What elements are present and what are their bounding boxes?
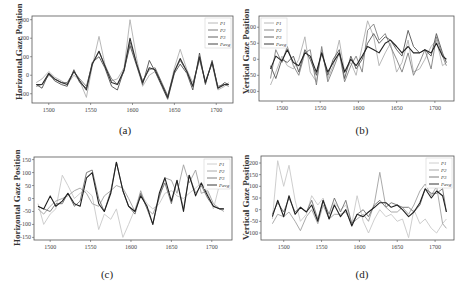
x-tick-label: 1500 bbox=[43, 107, 55, 113]
x-tick-label: 1650 bbox=[168, 107, 180, 113]
x-tick-label: 1650 bbox=[165, 244, 177, 250]
x-tick-label: 1500 bbox=[276, 105, 288, 111]
plot-frame bbox=[32, 16, 233, 103]
y-tick-label: 100 bbox=[247, 24, 256, 30]
legend-label: P3 bbox=[219, 35, 226, 40]
x-tick-label: 1500 bbox=[278, 244, 290, 250]
y-tick-label: -150 bbox=[20, 234, 31, 240]
plot-frame bbox=[259, 16, 454, 101]
x-tick-label: 1550 bbox=[85, 244, 97, 250]
y-tick-label: 0 bbox=[255, 207, 258, 213]
caption-a: (a) bbox=[110, 124, 140, 136]
y-tick-label: -100 bbox=[247, 230, 258, 236]
legend: P1P2P3Pavg bbox=[205, 18, 231, 48]
y-tick-label: -50 bbox=[23, 208, 31, 214]
legend-label: P2 bbox=[275, 28, 282, 33]
legend-label: P2 bbox=[219, 28, 226, 33]
y-tick-label: -100 bbox=[20, 221, 31, 227]
caption-b: (b) bbox=[347, 124, 377, 136]
chart-panel-b: Vertical Gaze Position 15001550160016501… bbox=[235, 0, 469, 148]
legend-label: Pavg bbox=[440, 182, 452, 187]
y-tick-label: 100 bbox=[249, 183, 258, 189]
legend: P1P2P3Pavg bbox=[426, 158, 452, 188]
legend-label: P1 bbox=[440, 161, 447, 166]
y-tick-label: 0 bbox=[253, 56, 256, 62]
x-tick-label: 1500 bbox=[44, 244, 56, 250]
legend-label: Pavg bbox=[275, 42, 287, 47]
chart-panel-c: Horizontal Gaze Position 150015501600165… bbox=[0, 148, 235, 297]
legend: P1P2P3Pavg bbox=[204, 159, 230, 189]
legend-label: P3 bbox=[275, 35, 282, 40]
y-tick-label: 50 bbox=[25, 183, 31, 189]
y-tick-label: -100 bbox=[18, 91, 29, 97]
y-tick-label: 50 bbox=[252, 195, 258, 201]
legend-label: Pavg bbox=[219, 42, 231, 47]
x-tick-label: 1700 bbox=[210, 107, 222, 113]
legend-label: P2 bbox=[218, 169, 225, 174]
y-tick-label: 150 bbox=[249, 172, 258, 178]
x-tick-label: 1600 bbox=[352, 105, 364, 111]
legend-label: P3 bbox=[440, 175, 447, 180]
x-tick-label: 1700 bbox=[429, 105, 441, 111]
x-tick-label: 1550 bbox=[314, 105, 326, 111]
legend-label: P1 bbox=[275, 21, 282, 26]
x-tick-label: 1550 bbox=[316, 244, 328, 250]
x-tick-label: 1600 bbox=[125, 244, 137, 250]
caption-c: (c) bbox=[92, 268, 122, 280]
y-tick-label: -50 bbox=[248, 72, 256, 78]
x-tick-label: 1550 bbox=[85, 107, 97, 113]
caption-d: (d) bbox=[347, 268, 377, 280]
x-tick-label: 1650 bbox=[391, 244, 403, 250]
y-tick-label: 50 bbox=[250, 40, 256, 46]
y-tick-label: -100 bbox=[245, 88, 256, 94]
x-tick-label: 1700 bbox=[429, 244, 441, 250]
legend-label: P1 bbox=[218, 162, 225, 167]
chart-panel-d: Vertical Gaze Position 15001550160016501… bbox=[235, 148, 469, 297]
legend: P1P2P3Pavg bbox=[261, 18, 287, 48]
x-tick-label: 1650 bbox=[391, 105, 403, 111]
chart-panel-a: Horizontal Gaze Position 150015501600165… bbox=[0, 0, 235, 148]
x-tick-label: 1600 bbox=[127, 107, 139, 113]
y-tick-label: 100 bbox=[20, 54, 29, 60]
y-tick-label: 150 bbox=[22, 157, 31, 163]
legend-label: P2 bbox=[440, 168, 447, 173]
x-tick-label: 1600 bbox=[353, 244, 365, 250]
y-tick-label: 200 bbox=[249, 160, 258, 166]
y-tick-label: 200 bbox=[20, 35, 29, 41]
legend-label: P3 bbox=[218, 176, 225, 181]
legend-label: P1 bbox=[219, 21, 226, 26]
x-tick-label: 1700 bbox=[206, 244, 218, 250]
y-tick-label: 0 bbox=[28, 196, 31, 202]
y-tick-label: -50 bbox=[250, 218, 258, 224]
y-tick-label: 0 bbox=[26, 72, 29, 78]
y-tick-label: 100 bbox=[22, 170, 31, 176]
y-tick-label: 300 bbox=[20, 17, 29, 23]
legend-label: Pavg bbox=[218, 183, 230, 188]
